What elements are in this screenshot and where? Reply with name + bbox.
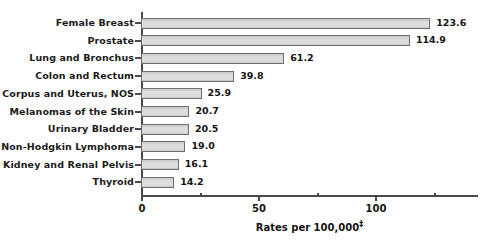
x-axis-title: Rates per 100,000‡ [141, 222, 478, 233]
y-axis-tick [135, 128, 141, 130]
bar-value-label: 61.2 [290, 52, 313, 64]
bar-chart: Female BreastProstateLung and BronchusCo… [0, 0, 483, 242]
x-axis-title-text: Rates per 100,000 [256, 222, 359, 233]
bar-value-label: 19.0 [191, 140, 214, 152]
bar [141, 18, 430, 29]
bar [141, 124, 189, 135]
bar-value-label: 14.2 [180, 176, 203, 188]
plot-area: 123.6114.961.239.825.920.720.519.016.114… [141, 12, 478, 195]
bar [141, 141, 185, 152]
bar [141, 106, 189, 117]
y-axis-tick [135, 40, 141, 42]
bar-value-label: 20.7 [195, 105, 218, 117]
bar [141, 88, 202, 99]
y-axis-category-label: Lung and Bronchus [29, 52, 134, 63]
x-axis-tick-label: 0 [139, 203, 146, 214]
bar-value-label: 20.5 [195, 123, 218, 135]
y-axis-tick [135, 181, 141, 183]
y-axis-category-label: Prostate [87, 35, 134, 46]
y-axis-category-label: Melanomas of the Skin [10, 106, 134, 117]
y-axis-tick [135, 111, 141, 113]
x-axis-tick-label: 50 [252, 203, 266, 214]
y-axis-tick [135, 146, 141, 148]
x-axis-minor-tick [317, 193, 319, 197]
bar-value-label: 39.8 [240, 70, 263, 82]
y-axis-category-label: Female Breast [56, 17, 134, 28]
bar-value-label: 123.6 [436, 17, 466, 29]
bar [141, 35, 410, 46]
y-axis-category-label: Kidney and Renal Pelvis [3, 159, 134, 170]
x-axis-major-tick [375, 195, 377, 201]
bar [141, 71, 234, 82]
bar-value-label: 25.9 [208, 87, 231, 99]
y-axis-tick [135, 75, 141, 77]
bar-value-label: 16.1 [185, 158, 208, 170]
x-axis-minor-tick [200, 193, 202, 197]
y-axis-tick [135, 93, 141, 95]
y-axis-category-labels: Female BreastProstateLung and BronchusCo… [0, 0, 134, 242]
x-axis-line [141, 195, 478, 197]
x-axis-minor-tick [434, 193, 436, 197]
footnote-mark: ‡ [359, 220, 363, 229]
y-axis-tick [135, 164, 141, 166]
y-axis-category-label: Corpus and Uterus, NOS [2, 88, 134, 99]
y-axis-category-label: Non-Hodgkin Lymphoma [1, 141, 134, 152]
y-axis-category-label: Thyroid [93, 176, 134, 187]
x-axis-tick-label: 100 [366, 203, 387, 214]
bar [141, 53, 284, 64]
x-axis-major-tick [141, 195, 143, 201]
y-axis-category-label: Urinary Bladder [48, 123, 134, 134]
bar [141, 177, 174, 188]
bar-value-label: 114.9 [416, 34, 446, 46]
bar [141, 159, 179, 170]
y-axis-tick [135, 57, 141, 59]
y-axis-category-label: Colon and Rectum [35, 70, 134, 81]
y-axis-tick [135, 22, 141, 24]
x-axis-major-tick [258, 195, 260, 201]
